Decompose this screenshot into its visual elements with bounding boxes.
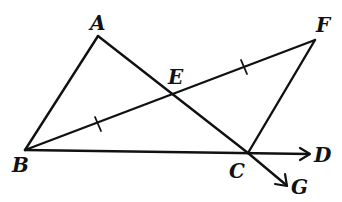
label-F: F	[315, 13, 332, 37]
segment-AB	[25, 36, 98, 150]
label-B: B	[11, 153, 29, 177]
label-G: G	[291, 175, 308, 199]
segment-CF	[248, 40, 315, 153]
label-A: A	[88, 11, 106, 35]
label-D: D	[313, 143, 332, 167]
label-E: E	[167, 65, 184, 89]
ray-CG	[248, 153, 285, 184]
geometry-diagram: A B C D E F G	[0, 0, 342, 202]
label-C: C	[229, 159, 245, 183]
ray-BD	[25, 150, 309, 154]
segment-BF	[25, 40, 315, 150]
